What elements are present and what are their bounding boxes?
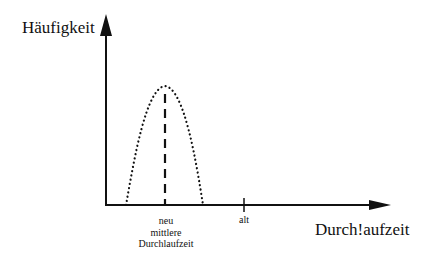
tick-old-label: alt bbox=[234, 215, 254, 225]
tick-new-line1: neu bbox=[126, 215, 206, 227]
diagram-canvas: Häufigkeit Durch!aufzeit neu mittlere Du… bbox=[0, 0, 436, 257]
y-axis-label: Häufigkeit bbox=[22, 19, 95, 36]
x-axis-arrow-icon bbox=[369, 200, 391, 210]
tick-new-label: neu mittlere Durchlaufzeit bbox=[126, 215, 206, 250]
y-axis-arrow-icon bbox=[100, 14, 112, 36]
x-axis-label: Durch!aufzeit bbox=[315, 221, 409, 238]
diagram-graphics bbox=[0, 0, 436, 257]
tick-new-line3: Durchlaufzeit bbox=[126, 238, 206, 250]
tick-new-line2: mittlere bbox=[126, 227, 206, 239]
